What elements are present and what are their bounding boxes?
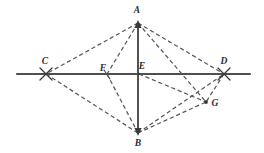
- segment-EG: [139, 74, 206, 102]
- point-label-G: G: [211, 99, 218, 109]
- segment-BG: [138, 102, 206, 133]
- point-label-C: C: [42, 57, 49, 67]
- geometry-diagram: A C F E D G B: [0, 0, 264, 153]
- segment-AG: [138, 23, 206, 102]
- point-marker-G: [204, 100, 208, 104]
- point-label-F: F: [100, 64, 107, 74]
- segment-AC: [46, 23, 138, 74]
- point-markers: [40, 20, 230, 136]
- point-marker-E: [138, 73, 140, 75]
- segment-AF: [107, 23, 138, 74]
- point-label-B: B: [135, 139, 142, 149]
- point-label-E: E: [139, 62, 146, 72]
- geometry-canvas: [0, 0, 264, 153]
- segment-FB: [107, 74, 138, 133]
- dashed-lines: [46, 23, 224, 133]
- point-label-A: A: [134, 6, 141, 16]
- segment-CB: [46, 74, 138, 133]
- segment-AD: [138, 23, 224, 74]
- point-label-D: D: [220, 57, 227, 67]
